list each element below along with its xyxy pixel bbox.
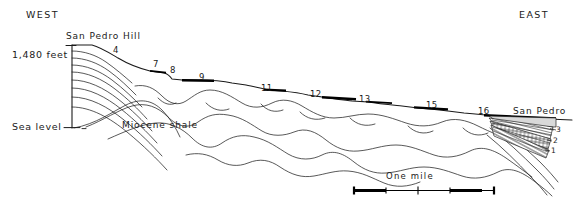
topographic-surface-profile [72, 45, 572, 120]
terrace-label-4: 4 [113, 46, 119, 55]
terrace-label-12: 12 [310, 90, 321, 99]
compass-label-east: EAST [519, 10, 549, 20]
terrace-label-11: 11 [261, 84, 272, 93]
terrace-label-16: 16 [478, 107, 489, 116]
san-pedro-sediment-wedge [489, 116, 556, 158]
locality-label-san-pedro: San Pedro [513, 107, 566, 116]
formation-label-miocene-shale: Miocene shale [122, 121, 198, 130]
compass-label-west: WEST [26, 10, 59, 20]
terrace-label-15: 15 [426, 101, 437, 110]
unit-label-1: 1 [551, 147, 556, 155]
terrace-label-9: 9 [199, 73, 205, 82]
unit-label-3: 3 [556, 126, 561, 134]
unit-label-2: 2 [553, 137, 558, 145]
summit-name-label: San Pedro Hill [66, 32, 141, 41]
terrace-label-8: 8 [170, 66, 176, 75]
terrace-label-7: 7 [153, 60, 159, 69]
sea-level-label: Sea level [12, 122, 62, 132]
scale-bar [354, 187, 494, 195]
terrace-label-13: 13 [359, 95, 370, 104]
geologic-cross-section-figure: WEST EAST San Pedro Hill 1,480 feet Sea … [0, 0, 580, 209]
summit-elevation-label: 1,480 feet [12, 50, 68, 60]
scale-bar-caption: One mile [386, 172, 434, 181]
